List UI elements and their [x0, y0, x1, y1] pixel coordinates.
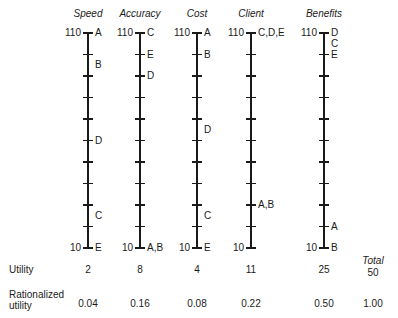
- total-utility: 50: [367, 267, 378, 278]
- alternative-label: D: [147, 70, 154, 81]
- rationalized-utility-value: 0.04: [78, 298, 97, 309]
- scale-tick: [83, 97, 93, 98]
- scale-tick: [319, 161, 329, 162]
- scale-min-label: 10: [122, 242, 133, 253]
- alternative-label: D: [204, 124, 211, 135]
- scale-tick: [192, 118, 202, 119]
- scale-max-label: 110: [117, 27, 133, 38]
- scale-tick: [319, 54, 329, 55]
- criterion-title: Accuracy: [119, 8, 160, 19]
- scale-tick: [246, 140, 256, 141]
- alternative-label: B: [95, 59, 102, 70]
- scale-tick: [192, 247, 202, 248]
- scale-min-label: 10: [70, 242, 81, 253]
- scale-tick: [319, 204, 329, 205]
- alternative-label: E: [331, 49, 338, 60]
- scale-min-label: 10: [306, 242, 317, 253]
- scale-max-label: 110: [65, 27, 81, 38]
- scale-tick: [83, 183, 93, 184]
- alternative-label: D: [331, 27, 338, 38]
- alternative-label: C: [95, 210, 102, 221]
- scale-tick: [319, 118, 329, 119]
- scale-tick: [192, 75, 202, 76]
- utility-value: 8: [137, 264, 143, 275]
- scale-tick: [83, 32, 93, 33]
- total-label: Total: [362, 255, 383, 266]
- rationalized-utility-value: 0.22: [241, 298, 260, 309]
- scale-tick: [135, 32, 145, 33]
- scale-tick: [135, 183, 145, 184]
- alternative-label: D: [95, 135, 102, 146]
- utility-row-label: Utility: [9, 264, 33, 275]
- scale-tick: [246, 183, 256, 184]
- scale-tick: [192, 161, 202, 162]
- utility-value: 2: [85, 264, 91, 275]
- scale-tick: [246, 97, 256, 98]
- alternative-label: B: [204, 49, 211, 60]
- scale-tick: [246, 161, 256, 162]
- scale-max-label: 110: [228, 27, 244, 38]
- criterion-title: Client: [238, 8, 264, 19]
- scale-tick: [192, 204, 202, 205]
- scale-tick: [192, 54, 202, 55]
- scale-tick: [83, 140, 93, 141]
- scale-tick: [83, 161, 93, 162]
- scale-tick: [246, 204, 256, 205]
- utility-value: 11: [246, 264, 256, 275]
- scale-tick: [319, 140, 329, 141]
- scale-tick: [319, 247, 329, 248]
- alternative-label: A: [204, 27, 211, 38]
- alternative-label: A: [95, 27, 102, 38]
- criterion-title: Speed: [74, 8, 103, 19]
- scale-tick: [135, 161, 145, 162]
- alternative-label: E: [204, 242, 211, 253]
- scale-tick: [319, 97, 329, 98]
- scale-tick: [192, 183, 202, 184]
- alternative-label: E: [95, 242, 102, 253]
- criterion-title: Cost: [187, 8, 208, 19]
- alternative-label: C: [204, 210, 211, 221]
- alternative-label: E: [147, 49, 154, 60]
- scale-tick: [83, 204, 93, 205]
- alternative-label: A,B: [258, 199, 274, 210]
- utility-value: 25: [318, 264, 329, 275]
- scale-tick: [83, 226, 93, 227]
- scale-tick: [319, 183, 329, 184]
- scale-tick: [83, 247, 93, 248]
- scale-tick: [246, 247, 256, 248]
- scale-tick: [319, 32, 329, 33]
- scale-max-label: 110: [301, 27, 317, 38]
- alternative-label: A,B: [147, 242, 163, 253]
- scale-tick: [246, 75, 256, 76]
- rationalized-utility-value: 0.16: [130, 298, 149, 309]
- scale-tick: [192, 226, 202, 227]
- scale-tick: [135, 204, 145, 205]
- scale-tick: [135, 226, 145, 227]
- scale-tick: [192, 97, 202, 98]
- rationalized-row-label-1: Rationalized: [9, 289, 64, 300]
- scale-tick: [135, 247, 145, 248]
- scale-tick: [319, 75, 329, 76]
- criterion-title: Benefits: [306, 8, 342, 19]
- total-rationalized: 1.00: [363, 298, 382, 309]
- scale-tick: [319, 226, 329, 227]
- scale-tick: [135, 140, 145, 141]
- rationalized-row-label-2: utility: [9, 300, 32, 311]
- scale-tick: [135, 75, 145, 76]
- alternative-label: B: [331, 242, 338, 253]
- scale-tick: [246, 54, 256, 55]
- alternative-label: C: [331, 38, 338, 49]
- alternative-label: C: [147, 27, 154, 38]
- scale-max-label: 110: [174, 27, 190, 38]
- scale-tick: [246, 226, 256, 227]
- alternative-label: C,D,E: [258, 27, 285, 38]
- alternative-label: A: [331, 221, 338, 232]
- scale-min-label: 10: [179, 242, 190, 253]
- scale-tick: [83, 54, 93, 55]
- scale-tick: [246, 32, 256, 33]
- scale-tick: [135, 118, 145, 119]
- scale-tick: [246, 118, 256, 119]
- scale-tick: [135, 54, 145, 55]
- utility-value: 4: [194, 264, 200, 275]
- rationalized-utility-value: 0.08: [187, 298, 206, 309]
